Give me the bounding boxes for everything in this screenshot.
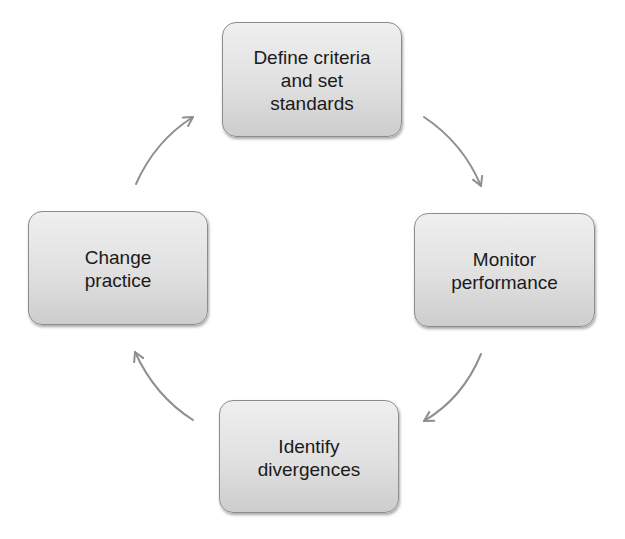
arrow-bottom-to-left bbox=[135, 352, 193, 420]
node-label: Change practice bbox=[85, 244, 152, 292]
node-label: Define criteria and set standards bbox=[253, 44, 370, 115]
node-define-criteria: Define criteria and set standards bbox=[222, 22, 402, 137]
arrow-top-to-right bbox=[424, 117, 481, 186]
node-label: Identify divergences bbox=[258, 433, 360, 481]
node-label: Monitor performance bbox=[451, 246, 558, 294]
node-identify-divergences: Identify divergences bbox=[219, 400, 399, 513]
node-change-practice: Change practice bbox=[28, 211, 208, 325]
node-monitor-performance: Monitor performance bbox=[414, 213, 595, 327]
arrow-left-to-top bbox=[136, 117, 193, 184]
arrow-right-to-bottom bbox=[424, 354, 481, 421]
